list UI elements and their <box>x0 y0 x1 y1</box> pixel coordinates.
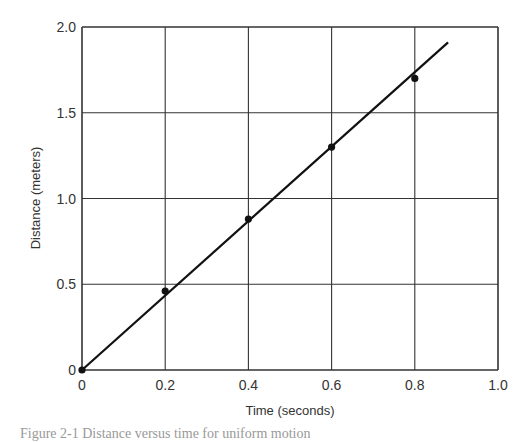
best-fit-line <box>82 42 448 370</box>
y-axis-label: Distance (meters) <box>28 147 43 250</box>
y-tick-label: 1.0 <box>57 191 77 207</box>
data-point <box>162 288 169 295</box>
x-tick-label: 0.4 <box>239 377 259 393</box>
x-tick-label: 0.2 <box>155 377 175 393</box>
y-tick-label: 2.0 <box>57 19 77 35</box>
x-tick-label: 1.0 <box>488 377 508 393</box>
y-tick-label: 0.5 <box>57 276 77 292</box>
y-axis-ticks: 00.51.01.52.0 <box>57 19 77 378</box>
y-tick-label: 1.5 <box>57 105 77 121</box>
y-tick-label: 0 <box>68 362 76 378</box>
x-axis-label: Time (seconds) <box>245 403 334 418</box>
data-point <box>78 366 85 373</box>
figure-caption: Figure 2-1 Distance versus time for unif… <box>20 426 310 442</box>
data-point <box>411 75 418 82</box>
data-point <box>328 143 335 150</box>
grid <box>82 27 498 370</box>
x-tick-label: 0.8 <box>405 377 425 393</box>
x-tick-label: 0 <box>78 377 86 393</box>
x-axis-ticks: 00.20.40.60.81.0 <box>78 377 508 393</box>
fit-line <box>82 42 448 370</box>
x-tick-label: 0.6 <box>322 377 342 393</box>
data-point <box>245 215 252 222</box>
